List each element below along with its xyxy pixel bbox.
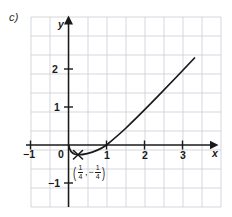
fraction-y: 1 4 bbox=[95, 164, 101, 180]
coordinate-plot: 2 1 −1 −1 0 1 2 3 y x ( 1 4 , − 1 4 ) bbox=[31, 17, 221, 207]
fraction-x: 1 4 bbox=[78, 164, 84, 180]
y-tick-label-neg1: −1 bbox=[48, 178, 60, 189]
curve-left-branch bbox=[69, 145, 107, 155]
part-label: c) bbox=[9, 11, 19, 23]
y-tick-label-1: 1 bbox=[54, 102, 60, 113]
paren-close: ) bbox=[102, 165, 105, 180]
x-tick-label-1: 1 bbox=[104, 150, 110, 161]
x-axis-label: x bbox=[212, 148, 218, 159]
y-axis-label: y bbox=[58, 19, 64, 30]
minimum-point-label: ( 1 4 , − 1 4 ) bbox=[72, 164, 106, 180]
x-tick-label-neg1: −1 bbox=[23, 149, 35, 160]
origin-label: 0 bbox=[58, 149, 64, 160]
label-minus-sign: − bbox=[88, 168, 93, 177]
fraction-x-denominator: 4 bbox=[78, 173, 84, 180]
fraction-x-numerator: 1 bbox=[78, 164, 84, 171]
x-tick-label-2: 2 bbox=[142, 150, 148, 161]
x-tick-label-3: 3 bbox=[180, 150, 186, 161]
curve-right-branch bbox=[107, 58, 195, 145]
fraction-y-denominator: 4 bbox=[95, 173, 101, 180]
label-comma: , bbox=[85, 168, 88, 177]
y-tick-label-2: 2 bbox=[52, 64, 58, 75]
fraction-y-numerator: 1 bbox=[95, 164, 101, 171]
paren-open: ( bbox=[73, 165, 76, 180]
figure-root: c) bbox=[0, 0, 232, 217]
